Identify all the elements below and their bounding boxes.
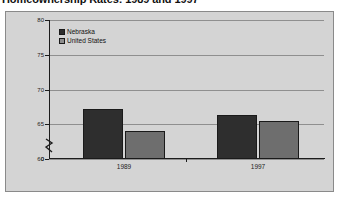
bar-nebraska-1997 xyxy=(217,115,257,159)
y-tick-mark-80 xyxy=(45,20,49,21)
y-tick-label-70: 70 xyxy=(8,87,44,93)
y-tick-mark-60 xyxy=(45,159,49,160)
chart-figure: Homeownership Rates: 1989 and 1997 06065… xyxy=(0,0,339,197)
chart-frame: 06065707580 Percent Nebraska United Stat… xyxy=(5,11,334,192)
legend-swatch-united-states xyxy=(59,38,65,44)
legend-item-nebraska: Nebraska xyxy=(59,28,106,36)
y-tick-mark-65 xyxy=(45,124,49,125)
chart-legend: Nebraska United States xyxy=(59,28,106,46)
gridline-75 xyxy=(49,55,324,56)
bar-united-states-1997 xyxy=(259,121,299,159)
y-tick-label-75: 75 xyxy=(8,52,44,58)
x-axis-label-1997: 1997 xyxy=(238,163,278,170)
axis-break-icon xyxy=(44,137,55,154)
chart-title-clipped: Homeownership Rates: 1989 and 1997 xyxy=(0,0,339,9)
legend-swatch-nebraska xyxy=(59,29,65,35)
bar-nebraska-1989 xyxy=(83,109,123,159)
x-axis-label-1989: 1989 xyxy=(104,163,144,170)
gridline-80 xyxy=(49,20,324,21)
gridline-70 xyxy=(49,90,324,91)
y-tick-mark-70 xyxy=(45,90,49,91)
x-axis-center-tick xyxy=(186,159,187,162)
y-tick-label-65: 65 xyxy=(8,121,44,127)
legend-item-united-states: United States xyxy=(59,37,106,45)
y-tick-label-80: 80 xyxy=(8,17,44,23)
bar-united-states-1989 xyxy=(125,131,165,159)
y-tick-mark-75 xyxy=(45,55,49,56)
legend-label-nebraska: Nebraska xyxy=(67,28,95,36)
legend-label-united-states: United States xyxy=(67,37,106,45)
y-tick-label-60: 60 xyxy=(8,156,44,162)
y-axis-ticks: 06065707580 xyxy=(6,12,44,172)
page-title: Homeownership Rates: 1989 and 1997 xyxy=(2,0,199,5)
